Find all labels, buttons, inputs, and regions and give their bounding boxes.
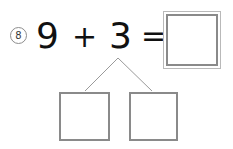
- bond-branch-right-line: [118, 58, 152, 91]
- answer-box-value[interactable]: [166, 14, 218, 66]
- number-bond-part-right-box[interactable]: [129, 92, 178, 141]
- bond-branch-left-line: [85, 58, 118, 91]
- answer-box[interactable]: [163, 11, 221, 69]
- worksheet-problem: 8 9 + 3 =: [0, 0, 233, 149]
- plus-operator-icon: +: [72, 22, 97, 52]
- problem-number-badge: 8: [10, 27, 27, 44]
- equation-addend-b: 3: [109, 18, 132, 54]
- number-bond-part-left-box[interactable]: [59, 92, 110, 141]
- equation-row: 9 + 3 =: [36, 13, 166, 59]
- equation-addend-a: 9: [36, 18, 59, 54]
